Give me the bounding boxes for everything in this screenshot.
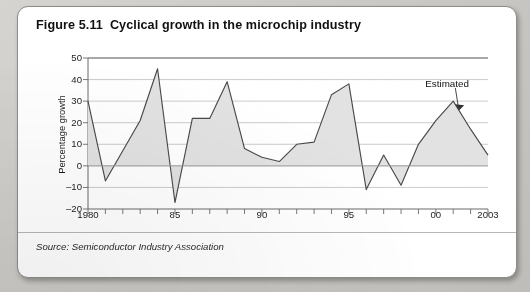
figure-source: Source: Semiconductor Industry Associati…: [36, 241, 224, 252]
chart-svg: [18, 7, 516, 235]
annotation-leader-line: [455, 88, 458, 106]
y-tick-label: 30: [56, 96, 82, 106]
y-axis-ticks: 50403020100–10–20: [56, 7, 82, 235]
y-tick-label: 0: [56, 161, 82, 171]
x-tick-label: 85: [170, 209, 181, 220]
x-tick-label: 90: [257, 209, 268, 220]
chart-plot-area: Percentage growth 50403020100–10–20 1980…: [18, 7, 516, 235]
scanned-page: Figure 5.11Cyclical growth in the microc…: [0, 0, 530, 292]
y-tick-label: 40: [56, 75, 82, 85]
figure-box: Figure 5.11Cyclical growth in the microc…: [17, 6, 517, 278]
y-tick-label: –10: [56, 182, 82, 192]
y-tick-label: 10: [56, 139, 82, 149]
y-tick-label: 50: [56, 53, 82, 63]
x-tick-label: 1980: [77, 209, 98, 220]
divider: [18, 232, 516, 233]
annotation-estimated: Estimated: [425, 78, 469, 89]
x-axis-ticks: 1980859095002003: [18, 209, 516, 225]
x-tick-label: 95: [344, 209, 355, 220]
x-tick-label: 00: [430, 209, 441, 220]
y-tick-label: 20: [56, 118, 82, 128]
x-tick-label: 2003: [477, 209, 498, 220]
